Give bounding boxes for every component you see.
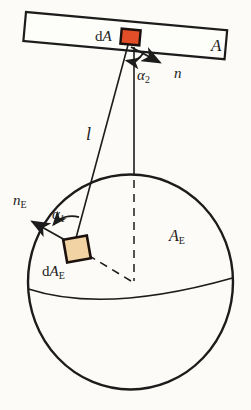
label-A: A	[210, 36, 222, 55]
label-n: n	[174, 65, 182, 81]
label-l: l	[86, 124, 91, 144]
dAE-square	[63, 236, 91, 263]
label-alpha1: α1	[52, 206, 65, 224]
label-dA: dA	[95, 28, 113, 44]
label-alpha2: α2	[137, 67, 150, 85]
dA-square	[120, 29, 140, 46]
label-dAE: dAE	[42, 263, 65, 281]
label-AE: AE	[168, 227, 185, 246]
figure-canvas: dA A n α2 l nE α1 AE dAE	[0, 0, 251, 410]
connecting-line-l	[76, 45, 128, 238]
surface-element-dA	[120, 29, 140, 46]
diagram: dA A n α2 l nE α1 AE dAE	[0, 0, 251, 410]
label-nE: nE	[13, 192, 27, 210]
surface-element-dAE	[63, 236, 91, 263]
alpha2-angle-arc	[127, 54, 143, 62]
radius-dashed	[88, 255, 131, 281]
